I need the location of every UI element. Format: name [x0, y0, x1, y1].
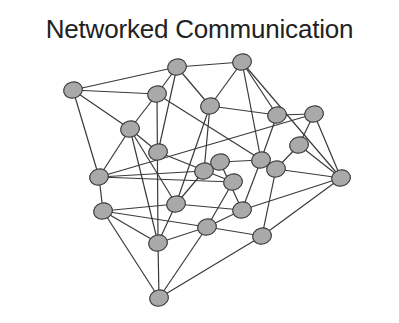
graph-edge: [99, 177, 233, 182]
graph-node: [231, 52, 253, 72]
graph-edge: [73, 90, 99, 177]
graph-node: [165, 194, 187, 214]
graph-edge: [159, 236, 262, 298]
graph-node: [166, 57, 188, 77]
graph-node: [88, 167, 110, 187]
graph-edge: [262, 178, 341, 236]
graph-node: [199, 96, 221, 116]
graph-node: [196, 217, 218, 237]
graph-node: [92, 201, 114, 221]
graph-node: [222, 172, 244, 192]
graph-edge: [103, 211, 207, 227]
graph-edge: [210, 106, 277, 115]
graph-edges: [73, 62, 341, 298]
graph-edge: [242, 178, 341, 210]
graph-node: [148, 288, 170, 308]
graph-edge: [103, 204, 176, 211]
graph-node: [147, 233, 169, 253]
graph-node: [146, 84, 168, 104]
graph-node: [231, 200, 253, 220]
graph-node: [330, 168, 352, 188]
graph-node: [62, 80, 84, 100]
graph-edge: [314, 114, 341, 178]
graph-node: [303, 104, 325, 124]
graph-node: [251, 226, 273, 246]
graph-edge: [73, 90, 157, 94]
graph-edge: [73, 90, 130, 129]
graph-edge: [103, 211, 159, 298]
graph-edge: [157, 94, 158, 243]
network-graph: [0, 0, 399, 323]
graph-edge: [176, 204, 242, 210]
